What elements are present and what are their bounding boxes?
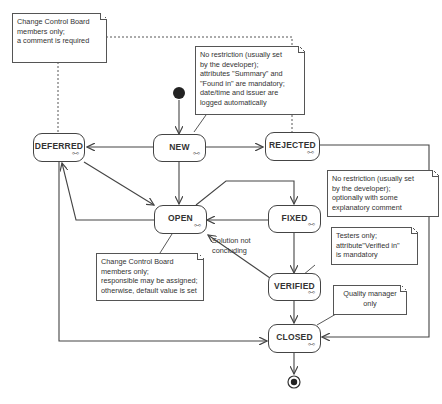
state-fixed[interactable]: FIXED ⧟ [268,205,321,233]
submachine-icon: ⧟ [194,221,201,229]
state-deferred[interactable]: DEFERRED ⧟ [33,133,85,162]
submachine-icon: ⧟ [308,288,315,296]
state-closed[interactable]: CLOSED ⧟ [268,324,321,353]
note-quality-manager: Quality manager only [333,285,407,315]
submachine-icon: ⧟ [193,149,200,157]
note-new-restriction: No restriction (usually set by the devel… [195,46,305,115]
state-verified[interactable]: VERIFIED ⧟ [268,273,321,301]
initial-node [173,87,185,99]
submachine-icon: ⧟ [307,148,314,156]
note-ccb-assign: Change Control Board members only; respo… [96,253,204,301]
submachine-icon: ⧟ [308,220,315,228]
state-new[interactable]: NEW ⧟ [153,134,206,162]
transition-open-deferred [62,163,154,220]
note-ccb-comment: Change Control Board members only; a com… [12,13,107,63]
label-solution-not-concluding: Solution not concluding [212,236,251,255]
submachine-icon: ⧟ [308,340,315,348]
note-testers: Testers only; attribute"Verified in" is … [331,227,418,265]
transition-deferred-open [84,162,154,205]
state-open[interactable]: OPEN ⧟ [154,205,207,234]
submachine-icon: ⧟ [72,149,79,157]
state-rejected[interactable]: REJECTED ⧟ [265,132,320,161]
transition-open-fixed [196,181,294,205]
note-fixed-restriction: No restriction (usually set by the devel… [327,170,439,217]
